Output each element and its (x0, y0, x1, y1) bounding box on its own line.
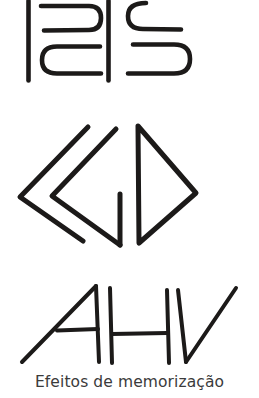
stroke-letter-a-crossbar (57, 329, 98, 331)
figure-abstract-glyph-pair-top (0, 0, 259, 100)
stroke-letter-v-left (178, 290, 186, 362)
figure-page: Efeitos de memorização (0, 0, 259, 398)
stroke-letter-a-stem (96, 286, 99, 362)
figure-caption: Efeitos de memorização (0, 372, 259, 392)
stroke-lower-hook (42, 47, 101, 74)
stroke-letter-h-crossbar (112, 333, 167, 334)
stroke-s-lower (128, 45, 190, 74)
stroke-letter-a-diagonal (22, 286, 96, 362)
stroke-upper-hook (41, 6, 101, 31)
stroke-s-upper (128, 3, 181, 30)
stroke-triangle (138, 126, 196, 243)
figure-stack (0, 0, 259, 370)
stroke-letter-h-right-stem (167, 290, 169, 363)
figure-abstract-letters-ahv-bottom (0, 278, 259, 366)
stroke-letter-h-left-stem (110, 288, 112, 363)
stroke-letter-v-right (186, 288, 236, 362)
stroke-chevron-outer (20, 127, 88, 241)
figure-abstract-chevrons-and-triangle-middle (0, 110, 259, 255)
